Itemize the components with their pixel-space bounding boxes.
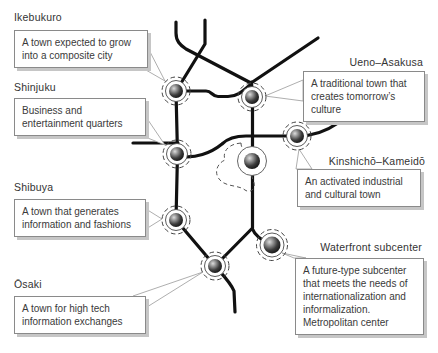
node-kinshicho-kameido [283,122,311,150]
callout-box-shinjuku: Business and entertainment quarters [14,98,146,136]
diagram-canvas: Ikebukuro A town expected to grow into a… [0,0,438,353]
rail-line-north-vertical [178,20,205,88]
callout-text-line: that meets the needs of [303,277,416,290]
callout-box-ikebukuro: A town expected to grow into a composite… [14,30,148,68]
node-shinjuku [163,140,191,168]
callout-text-line: Business and [22,104,138,117]
callout-text-line: creates tomorrow’s [311,90,417,103]
pointer-shibuya [146,209,162,229]
node-ueno-asakusa [238,83,266,111]
rail-line-ikebukuro-ueno [176,84,251,97]
node-osaki [201,252,229,280]
callout-text-line: Metropolitan center [303,316,416,329]
callout-text-line: A town that generates [22,205,138,218]
callout-text-line: internationalization and [303,290,416,303]
callout-text-line: information exchanges [22,315,138,328]
callout-text-line: A future-type subcenter [303,264,416,277]
label-ueno-asakusa: Ueno–Asakusa [303,56,423,68]
callout-box-ueno-asakusa: A traditional town that creates tomorrow… [303,71,425,122]
callout-text-line: An activated industrial [305,175,413,188]
callout-text-line: A traditional town that [311,77,417,90]
station-nodes [162,77,311,280]
callout-text-line: information and fashions [22,218,138,231]
callout-box-shibuya: A town that generates information and fa… [14,199,146,237]
label-shinjuku: Shinjuku [14,81,56,93]
label-shibuya: Shibuya [14,181,53,193]
callout-box-osaki: A town for high tech information exchang… [14,296,146,334]
label-kinshicho-kameido: Kinshichō–Kameidō [297,155,425,167]
callout-text-line: entertainment quarters [22,117,138,130]
callout-text-line: culture [311,103,417,116]
node-center-unnamed [238,147,267,176]
label-waterfront: Waterfront subcenter [295,241,422,253]
callout-box-kinshicho-kameido: An activated industrial and cultural tow… [297,169,421,207]
pointer-ueno [265,80,303,101]
callout-text-line: A town expected to grow [22,36,140,49]
callout-text-line: A town for high tech [22,302,138,315]
callout-text-line: informalization. [303,303,416,316]
callout-text-line: and cultural town [305,188,413,201]
label-osaki: Ōsaki [14,278,42,290]
label-ikebukuro: Ikebukuro [14,11,62,23]
callout-text-line: into a composite city [22,49,140,62]
node-shibuya [162,206,190,234]
node-ikebukuro [162,77,190,105]
callout-box-waterfront: A future-type subcenter that meets the n… [295,258,424,335]
node-waterfront [257,230,288,261]
